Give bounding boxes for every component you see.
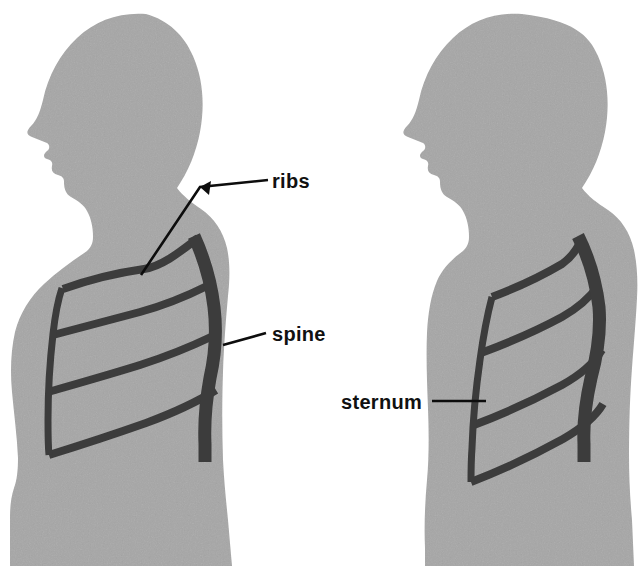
anatomy-diagram-figure: Rib cage in side view Two side-view silh… [0,0,644,584]
diagram-canvas: Rib cage in side view Two side-view silh… [0,0,644,584]
right-figure-group [403,14,637,566]
sternum-label: sternum [341,391,422,413]
spine-label: spine [272,323,326,345]
ribs-label: ribs [272,170,310,192]
